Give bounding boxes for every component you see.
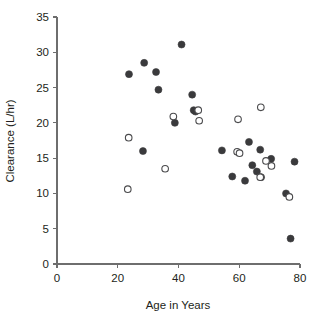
data-point-open (170, 113, 177, 120)
y-tick-label: 25 (36, 82, 49, 94)
data-point-filled (245, 138, 252, 145)
x-tick-label: 80 (294, 272, 307, 284)
data-point-filled (291, 158, 298, 165)
y-tick-label: 30 (36, 46, 49, 58)
y-tick-label: 0 (43, 258, 49, 270)
x-tick-label: 60 (233, 272, 246, 284)
data-point-filled (189, 91, 196, 98)
data-point-open (235, 116, 242, 123)
data-point-filled (218, 147, 225, 154)
data-point-filled (125, 71, 132, 78)
data-point-open (257, 174, 264, 181)
data-point-filled (229, 173, 236, 180)
x-axis-title: Age in Years (146, 299, 211, 311)
scatter-plot-figure: 05101520253035 020406080 Age in Years Cl… (0, 0, 317, 317)
data-point-open (258, 104, 265, 111)
data-point-filled (139, 148, 146, 155)
data-point-filled (257, 146, 264, 153)
x-axis-ticks (57, 264, 300, 268)
data-point-open (124, 186, 131, 193)
y-tick-label: 20 (36, 117, 49, 129)
data-point-filled (242, 177, 249, 184)
y-tick-label: 10 (36, 187, 49, 199)
data-point-open (195, 107, 202, 114)
x-tick-label: 20 (111, 272, 124, 284)
data-point-filled (249, 162, 256, 169)
y-tick-label: 35 (36, 11, 49, 23)
data-point-open (196, 117, 203, 124)
data-point-filled (153, 69, 160, 76)
y-axis-tick-labels: 05101520253035 (36, 11, 49, 270)
data-point-filled (155, 86, 162, 93)
x-tick-label: 40 (172, 272, 185, 284)
data-point-filled (141, 59, 148, 66)
data-point-filled (171, 119, 178, 126)
y-tick-label: 15 (36, 152, 49, 164)
data-point-open (162, 165, 169, 172)
y-axis-ticks (53, 17, 57, 264)
x-axis-tick-labels: 020406080 (54, 272, 307, 284)
data-point-filled (178, 41, 185, 48)
series-filled (125, 41, 298, 242)
data-point-open (286, 194, 293, 201)
data-point-open (268, 163, 275, 170)
axes-group (53, 17, 300, 268)
y-tick-label: 5 (43, 223, 49, 235)
data-point-filled (287, 235, 294, 242)
y-axis-title: Clearance (L/hr) (4, 99, 16, 182)
data-points-layer (124, 41, 298, 242)
x-tick-label: 0 (54, 272, 60, 284)
chart-canvas: 05101520253035 020406080 Age in Years Cl… (0, 0, 317, 317)
data-point-open (236, 150, 243, 157)
series-open (124, 104, 292, 200)
data-point-open (125, 134, 132, 141)
data-point-open (263, 158, 270, 165)
